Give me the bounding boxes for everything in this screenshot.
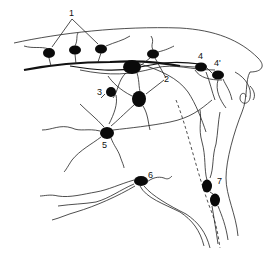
neuron-cell-1c [95, 45, 107, 54]
label-4prime: 4' [214, 58, 221, 68]
neuron-diagram: 1 2 3 4 4' 5 6 7 [0, 0, 278, 261]
neuron-cell-4prime [212, 71, 224, 80]
cell-processes-6 [40, 176, 210, 248]
neuron-cell-7a [202, 180, 212, 193]
label-4: 4 [198, 51, 203, 61]
dashed-boundary [176, 100, 220, 248]
neuron-cell-large [123, 60, 141, 74]
neuron-cell-1b [69, 46, 81, 55]
neuron-cell-6 [134, 176, 148, 186]
label-7: 7 [217, 176, 222, 186]
outer-contour-lower [226, 72, 250, 236]
neuron-cell-4 [195, 63, 207, 72]
neuron-cell-upper [147, 50, 159, 59]
pointer-line-2 [146, 80, 164, 94]
cell-processes-3 [101, 94, 117, 124]
neuron-cell-3 [106, 87, 116, 97]
neuron-cell-5 [100, 127, 114, 139]
curl-structure [235, 72, 254, 103]
label-3: 3 [97, 87, 102, 97]
label-2: 2 [164, 74, 169, 84]
cell-processes-7 [200, 110, 228, 244]
cell-processes-5 [42, 100, 212, 172]
cell-processes-large [113, 64, 206, 132]
main-nerve-trunk [24, 61, 180, 70]
label-5: 5 [102, 140, 107, 150]
neuron-cell-2 [132, 91, 146, 107]
cell-processes-4 [180, 66, 232, 108]
neuron-cell-7b [210, 194, 220, 207]
label-1: 1 [69, 8, 74, 18]
label-6: 6 [148, 170, 153, 180]
neuron-cell-1a [43, 48, 55, 58]
